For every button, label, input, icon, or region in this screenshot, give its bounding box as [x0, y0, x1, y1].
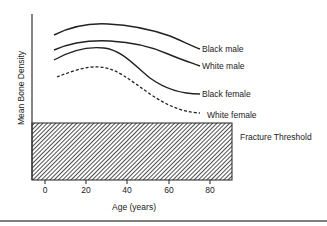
- curve-white-male: [54, 41, 200, 66]
- x-tick-0: 0: [43, 185, 48, 195]
- label-black-male: Black male: [202, 44, 244, 54]
- x-tick-20: 20: [81, 185, 91, 195]
- curve-white-female: [57, 67, 200, 113]
- x-axis-title: Age (years): [112, 202, 156, 212]
- label-white-male: White male: [202, 61, 245, 71]
- x-axis-ticks: [45, 180, 210, 184]
- x-tick-60: 60: [164, 185, 174, 195]
- curve-black-female: [54, 48, 200, 94]
- x-tick-40: 40: [122, 185, 132, 195]
- bone-density-chart: 0 20 40 60 80 Age (years) Mean Bone Dens…: [0, 0, 327, 226]
- label-fracture-threshold: Fracture Threshold: [240, 132, 312, 142]
- label-white-female: White female: [207, 110, 257, 120]
- label-black-female: Black female: [202, 89, 251, 99]
- curve-black-male: [54, 24, 200, 49]
- y-axis-title: Mean Bone Density: [16, 50, 26, 125]
- fracture-threshold-region: [32, 123, 232, 180]
- x-tick-80: 80: [205, 185, 215, 195]
